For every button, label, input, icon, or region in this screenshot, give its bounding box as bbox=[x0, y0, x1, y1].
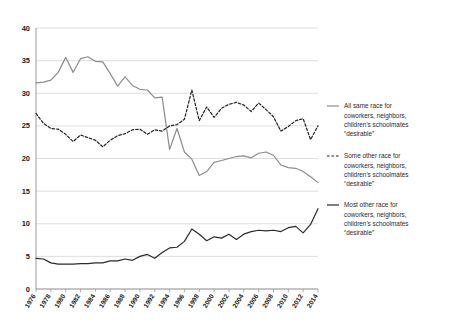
series-line-2 bbox=[36, 209, 318, 264]
y-tick-labels: 0510152025303540 bbox=[22, 24, 30, 294]
x-tick-label: 1996 bbox=[172, 293, 186, 309]
legend-label-0-line-0: All same race for bbox=[344, 102, 393, 109]
legend-label-1-line-3: “desirable” bbox=[344, 180, 374, 187]
series-line-0 bbox=[36, 57, 318, 183]
legend-label-1-line-0: Some other race for bbox=[344, 152, 401, 159]
y-tick-label: 25 bbox=[22, 121, 30, 130]
x-tick-label: 1978 bbox=[38, 293, 52, 309]
x-tick-label: 1986 bbox=[97, 293, 111, 309]
y-tick-label: 0 bbox=[26, 285, 30, 294]
x-tick-label: 1990 bbox=[127, 293, 141, 309]
x-tick-labels: 1976197819801982198419861988199019921994… bbox=[23, 293, 319, 309]
y-tick-label: 30 bbox=[22, 89, 30, 98]
y-tick-label: 15 bbox=[22, 187, 30, 196]
legend-label-2-line-2: children's schoolmates bbox=[344, 220, 408, 227]
legend-label-2-line-3: “desirable” bbox=[344, 229, 374, 236]
x-tick-label: 2010 bbox=[275, 293, 289, 309]
legend-label-0-line-2: children's schoolmates bbox=[344, 121, 408, 128]
data-series-group bbox=[36, 57, 318, 264]
x-tick-label: 1992 bbox=[142, 293, 156, 309]
chart-legend: All same race forcoworkers, neighbors,ch… bbox=[327, 102, 408, 236]
x-tick-label: 2002 bbox=[216, 293, 230, 309]
line-chart: 0510152025303540 19761978198019821984198… bbox=[0, 0, 461, 333]
x-tick-label: 2014 bbox=[305, 293, 319, 309]
x-axis bbox=[36, 289, 318, 292]
y-tick-label: 10 bbox=[22, 219, 30, 228]
chart-container: 0510152025303540 19761978198019821984198… bbox=[0, 0, 461, 333]
x-tick-label: 2012 bbox=[290, 293, 304, 309]
x-tick-label: 1980 bbox=[53, 293, 67, 309]
x-tick-label: 1994 bbox=[157, 293, 171, 309]
legend-label-2-line-1: coworkers, neighbors, bbox=[344, 211, 407, 219]
y-tick-label: 40 bbox=[22, 24, 30, 33]
x-tick-label: 2008 bbox=[261, 293, 275, 309]
legend-label-0-line-1: coworkers, neighbors, bbox=[344, 112, 407, 120]
x-tick-label: 1976 bbox=[23, 293, 37, 309]
legend-label-0-line-3: “desirable” bbox=[344, 130, 374, 137]
x-tick-label: 1988 bbox=[112, 293, 126, 309]
x-tick-label: 1998 bbox=[186, 293, 200, 309]
x-tick-label: 1984 bbox=[83, 293, 97, 309]
legend-label-1-line-2: children's schoolmates bbox=[344, 171, 408, 178]
y-tick-label: 20 bbox=[22, 154, 30, 163]
legend-label-2-line-0: Most other race for bbox=[344, 201, 399, 208]
x-tick-label: 2004 bbox=[231, 293, 245, 309]
x-tick-label: 1982 bbox=[68, 293, 82, 309]
legend-label-1-line-1: coworkers, neighbors, bbox=[344, 162, 407, 170]
series-line-1 bbox=[36, 90, 318, 147]
y-tick-label: 5 bbox=[26, 252, 30, 261]
x-tick-label: 2000 bbox=[201, 293, 215, 309]
y-tick-label: 35 bbox=[22, 56, 30, 65]
x-tick-label: 2006 bbox=[246, 293, 260, 309]
